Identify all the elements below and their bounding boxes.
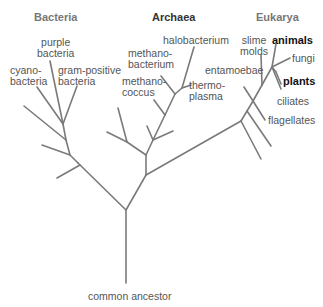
label-gram-positive-bacteria: gram-positive bacteria bbox=[58, 65, 121, 87]
label-purple-bacteria: purple bacteria bbox=[37, 37, 74, 59]
label-slime-molds: slime molds bbox=[240, 35, 268, 57]
domain-label-archaea: Archaea bbox=[152, 11, 195, 23]
label-plants: plants bbox=[283, 76, 315, 87]
label-flagellates: flagellates bbox=[268, 115, 315, 126]
label-halobacterium: halobacterium bbox=[163, 35, 229, 46]
label-entamoebae: entamoebae bbox=[205, 65, 263, 76]
label-thermoplasma: thermo- plasma bbox=[189, 80, 225, 102]
label-fungi: fungi bbox=[292, 53, 315, 64]
label-common-ancestor: common ancestor bbox=[88, 291, 171, 302]
label-ciliates: ciliates bbox=[277, 96, 309, 107]
label-methanococcus: methano- coccus bbox=[122, 76, 166, 98]
label-cyanobacteria: cyano- bacteria bbox=[10, 65, 47, 87]
label-animals: animals bbox=[272, 35, 313, 46]
bacteria-branch bbox=[78, 163, 126, 210]
domain-label-eukarya: Eukarya bbox=[256, 11, 299, 23]
domain-label-bacteria: Bacteria bbox=[34, 11, 77, 23]
label-methanobacterium: methano- bacterium bbox=[128, 48, 174, 70]
